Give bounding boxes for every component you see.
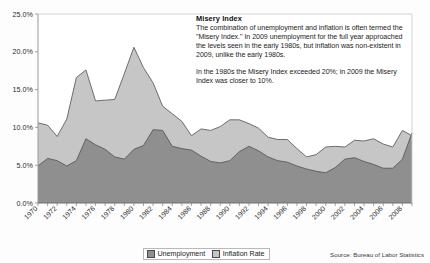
y-axis-tick-label: 15.0% [13,85,34,94]
x-axis-tick-label: 1996 [272,205,288,221]
x-axis-tick-label: 1992 [234,205,250,221]
x-axis-tick-label: 1974 [61,205,77,221]
source-note: Source: Bureau of Labor Statistics [330,251,424,258]
y-axis-tick-label: 10.0% [13,123,34,132]
x-axis-tick-label: 2004 [349,205,365,221]
x-axis-tick-label: 1980 [119,205,135,221]
legend-item-inflation-rate: Inflation Rate [212,250,264,258]
x-axis-tick-label: 1984 [157,205,173,221]
x-axis-tick-label: 2002 [330,205,346,221]
annotation-block: Misery Index The combination of unemploy… [196,14,414,87]
x-axis-tick-label: 1998 [291,205,307,221]
x-axis-tick-label: 2008 [387,205,403,221]
x-axis-tick-label: 1982 [138,205,154,221]
legend-swatch-icon-inflation-rate [212,250,220,258]
legend-label-unemployment: Unemployment [158,250,206,258]
annotation-paragraph-2: In the 1980s the Misery Index exceeded 2… [196,68,414,86]
legend-label-inflation-rate: Inflation Rate [223,250,265,258]
x-axis-tick-label: 1988 [195,205,211,221]
x-axis-tick-label: 1978 [99,205,115,221]
misery-index-chart: 0.0%5.0%10.0%15.0%20.0%25.0%197019721974… [0,0,430,263]
x-axis-tick-label: 1986 [176,205,192,221]
x-axis-tick-label: 2006 [368,205,384,221]
x-axis-tick-label: 1972 [42,205,58,221]
x-axis-tick-label: 1990 [215,205,231,221]
y-axis-tick-label: 20.0% [13,47,34,56]
chart-legend: Unemployment Inflation Rate [143,248,270,260]
x-axis-tick-label: 2000 [310,205,326,221]
y-axis-tick-label: 5.0% [17,161,34,170]
y-axis-tick-label: 25.0% [13,10,34,19]
x-axis-tick-label: 1976 [80,205,96,221]
annotation-paragraph-1: The combination of unemployment and infl… [196,24,414,60]
x-axis-tick-label: 1994 [253,205,269,221]
legend-swatch-icon-unemployment [147,250,155,258]
annotation-title: Misery Index [196,14,414,23]
legend-item-unemployment: Unemployment [147,250,205,258]
